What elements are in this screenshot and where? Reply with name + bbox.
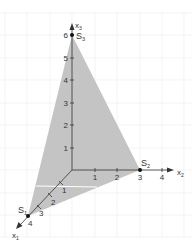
- x1-axis-label: x1: [12, 231, 19, 241]
- x2-axis-label: x2: [177, 168, 184, 178]
- svg-text:2: 2: [51, 198, 56, 207]
- svg-text:3: 3: [64, 99, 69, 108]
- svg-text:3: 3: [138, 173, 143, 182]
- svg-text:2: 2: [115, 173, 120, 182]
- x3-axis-label: x3: [75, 21, 82, 31]
- svg-text:1: 1: [93, 173, 98, 182]
- point-s3-label: S3: [76, 31, 85, 42]
- svg-text:1: 1: [64, 144, 69, 153]
- coordinate-diagram: 1 2 3 4 5 6 1 2 3 4 1 2 3 4 x3 x2 x1 S1 …: [0, 0, 192, 248]
- svg-text:5: 5: [64, 54, 69, 63]
- point-s2: [138, 168, 142, 172]
- svg-text:4: 4: [160, 173, 165, 182]
- svg-text:4: 4: [64, 76, 69, 85]
- svg-text:3: 3: [39, 209, 44, 218]
- svg-text:4: 4: [28, 219, 33, 228]
- diagram-canvas: 1 2 3 4 5 6 1 2 3 4 1 2 3 4 x3 x2 x1 S1 …: [0, 0, 192, 248]
- svg-text:6: 6: [64, 31, 69, 40]
- plane-triangle: [28, 35, 140, 216]
- point-s1-label: S1: [18, 205, 27, 216]
- svg-text:1: 1: [62, 186, 67, 195]
- point-s2-label: S2: [141, 158, 150, 169]
- point-s3: [70, 33, 74, 37]
- svg-text:2: 2: [64, 121, 69, 130]
